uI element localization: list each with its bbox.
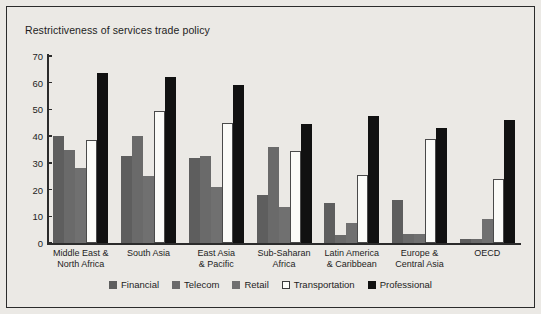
legend-item: Financial: [109, 279, 159, 290]
bar-group: [257, 56, 312, 243]
bar-financial: [460, 239, 471, 243]
bar-financial: [392, 200, 403, 243]
x-axis-category-label: OECD: [453, 248, 521, 259]
bar-financial: [189, 158, 200, 243]
bar-transportation: [357, 175, 368, 243]
chart-legend: FinancialTelecomRetailTransportationProf…: [0, 279, 541, 290]
y-axis-tick-label: 50: [3, 104, 43, 115]
bar-retail: [482, 219, 493, 243]
bar-retail: [279, 207, 290, 243]
bar-professional: [436, 128, 447, 243]
y-axis-tick: [47, 189, 52, 191]
bar-group: [121, 56, 176, 243]
x-axis-category-label: South Asia: [115, 248, 183, 259]
bar-telecom: [335, 235, 346, 243]
y-axis-tick: [47, 162, 52, 164]
chart-title: Restrictiveness of services trade policy: [25, 24, 210, 36]
bar-telecom: [200, 156, 211, 243]
chart-figure: Restrictiveness of services trade policy…: [0, 0, 541, 314]
legend-swatch-icon: [172, 281, 180, 289]
y-axis-tick: [47, 55, 52, 57]
x-axis-category-label: Latin America & Caribbean: [318, 248, 386, 270]
y-axis-tick-label: 30: [3, 157, 43, 168]
bar-retail: [75, 168, 86, 243]
y-axis-tick-label: 10: [3, 211, 43, 222]
y-axis-tick: [47, 242, 52, 244]
legend-swatch-icon: [232, 281, 240, 289]
bar-professional: [233, 85, 244, 243]
bar-professional: [165, 77, 176, 243]
y-axis-tick: [47, 82, 52, 84]
legend-label: Professional: [380, 279, 432, 290]
bar-group: [392, 56, 447, 243]
y-axis-tick-label: 40: [3, 131, 43, 142]
legend-item: Retail: [232, 279, 268, 290]
x-axis-category-label: Europe & Central Asia: [386, 248, 454, 270]
bar-transportation: [86, 140, 97, 243]
bar-group: [53, 56, 108, 243]
legend-item: Professional: [368, 279, 432, 290]
bar-transportation: [425, 139, 436, 243]
bar-transportation: [222, 123, 233, 243]
bar-retail: [211, 187, 222, 243]
y-axis-tick-label: 60: [3, 77, 43, 88]
legend-item: Telecom: [172, 279, 219, 290]
y-axis-tick: [47, 135, 52, 137]
x-axis-line: [47, 243, 521, 245]
bar-financial: [324, 203, 335, 243]
legend-label: Transportation: [294, 279, 355, 290]
legend-label: Financial: [121, 279, 159, 290]
bar-financial: [121, 156, 132, 243]
x-axis-category-label: Middle East & North Africa: [47, 248, 115, 270]
bar-professional: [97, 73, 108, 243]
legend-swatch-icon: [282, 281, 290, 289]
bar-retail: [143, 176, 154, 243]
bar-group: [324, 56, 379, 243]
bar-retail: [346, 223, 357, 243]
x-axis-category-label: Sub-Saharan Africa: [250, 248, 318, 270]
bar-transportation: [290, 151, 301, 243]
y-axis-tick-labels: 010203040506070: [0, 0, 43, 314]
legend-label: Retail: [244, 279, 268, 290]
bar-telecom: [471, 239, 482, 243]
bar-financial: [53, 136, 64, 243]
y-axis-tick-label: 70: [3, 51, 43, 62]
bar-financial: [257, 195, 268, 243]
bar-professional: [368, 116, 379, 243]
bar-telecom: [403, 234, 414, 243]
legend-swatch-icon: [109, 281, 117, 289]
y-axis-tick-label: 20: [3, 184, 43, 195]
y-axis-tick: [47, 109, 52, 111]
bar-telecom: [268, 147, 279, 243]
bar-professional: [301, 124, 312, 243]
legend-swatch-icon: [368, 281, 376, 289]
bar-transportation: [154, 111, 165, 243]
x-axis-category-label: East Asia & Pacific: [182, 248, 250, 270]
bar-group: [189, 56, 244, 243]
bar-professional: [504, 120, 515, 243]
legend-item: Transportation: [282, 279, 355, 290]
bar-group: [460, 56, 515, 243]
bar-telecom: [132, 136, 143, 243]
bar-telecom: [64, 150, 75, 244]
y-axis-tick: [47, 216, 52, 218]
y-axis-tick-label: 0: [3, 238, 43, 249]
legend-label: Telecom: [184, 279, 219, 290]
bar-retail: [414, 234, 425, 243]
bar-transportation: [493, 179, 504, 243]
